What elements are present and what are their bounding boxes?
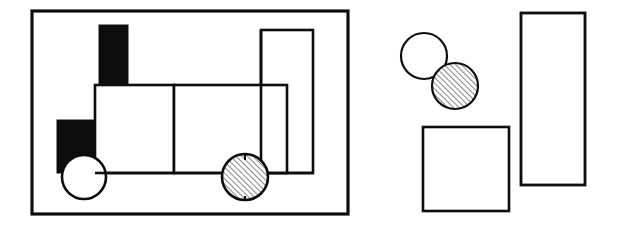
chimney-black-rect [99,25,128,86]
body-left-rect [95,85,174,173]
loose-tall-rect [521,13,585,185]
figure-canvas: Hand-drawn line figure: composite train … [0,0,617,237]
line-drawing-svg [0,0,617,237]
loose-square [423,127,509,211]
front-white-circle [62,155,106,199]
